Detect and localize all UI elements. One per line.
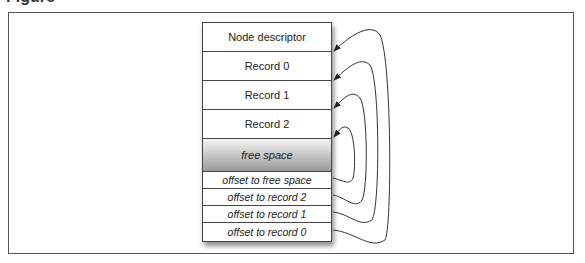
offset-arrows (0, 0, 585, 263)
arrow-free-space (333, 127, 355, 182)
arrow-record-1 (333, 62, 378, 223)
arrow-record-2 (333, 94, 366, 204)
